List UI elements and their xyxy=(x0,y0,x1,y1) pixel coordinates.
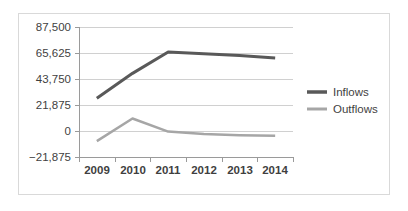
x-axis-label-2012: 2012 xyxy=(191,164,217,176)
gridlines xyxy=(79,27,293,157)
x-axis-label-2010: 2010 xyxy=(120,164,146,176)
y-axis-label-87500: 87,500 xyxy=(36,21,71,33)
chart-container: 87,500 65,625 43,750 21,875 0 −21,875 20… xyxy=(18,13,390,195)
x-axis-label-2013: 2013 xyxy=(227,164,253,176)
line-chart-plot: 87,500 65,625 43,750 21,875 0 −21,875 20… xyxy=(19,14,389,194)
x-axis-label-2011: 2011 xyxy=(156,164,182,176)
y-axis-label-0: 0 xyxy=(65,125,71,137)
chart-legend: Inflows Outflows xyxy=(307,86,378,115)
y-axis-ticks xyxy=(75,27,79,157)
y-axis-label-minus21875: −21,875 xyxy=(29,151,71,163)
x-axis-ticks xyxy=(79,157,293,162)
x-axis-label-2014: 2014 xyxy=(262,164,288,176)
y-axis-label-65625: 65,625 xyxy=(36,47,71,59)
y-axis-label-21875: 21,875 xyxy=(36,99,71,111)
x-axis-label-2009: 2009 xyxy=(84,164,110,176)
y-axis-label-43750: 43,750 xyxy=(36,73,71,85)
series-line-outflows xyxy=(97,119,275,142)
legend-label-outflows: Outflows xyxy=(333,103,378,115)
series-line-inflows xyxy=(97,52,275,98)
legend-label-inflows: Inflows xyxy=(333,86,369,98)
